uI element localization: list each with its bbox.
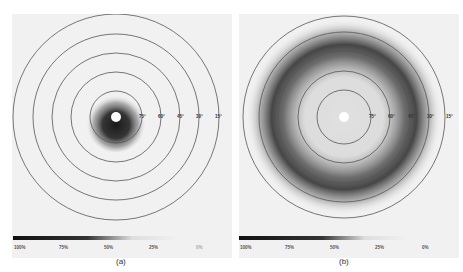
polar-intensity-plot-b [239,14,459,258]
ring-label-15: 15° [446,114,453,119]
panel-a-polar-plot: 75° 60° 45° 30° 15° 100% 75% 50% 25% 0% … [12,14,232,258]
scale-label-100: 100% [240,245,252,250]
ring-label-75: 75° [369,114,376,119]
panel-b-polar-plot: 75° 60° 45° 30° 15° 100% 75% 50% 25% 0% … [239,14,459,258]
scale-label-50: 50% [330,245,339,250]
intensity-scale-bar [13,236,178,240]
ring-label-45: 45° [408,114,415,119]
center-hole [111,112,121,122]
ring-label-15: 15° [215,114,222,119]
ring-label-45: 45° [177,114,184,119]
polar-intensity-plot-a [12,14,232,258]
ring-label-30: 30° [196,114,203,119]
scale-label-0: 0% [196,245,203,250]
ring-label-60: 60° [158,114,165,119]
scale-label-75: 75% [59,245,68,250]
scale-label-75: 75% [285,245,294,250]
ring-label-75: 75° [139,114,146,119]
scale-label-25: 25% [149,245,158,250]
scale-label-0: 0% [422,245,429,250]
scale-label-100: 100% [14,245,26,250]
scale-label-50: 50% [104,245,113,250]
panel-caption: (b) [339,257,349,266]
ring-label-60: 60° [388,114,395,119]
scale-label-25: 25% [375,245,384,250]
panel-caption: (a) [116,257,126,266]
intensity-scale-bar [239,236,407,240]
ring-label-30: 30° [427,114,434,119]
center-hole [339,112,349,122]
